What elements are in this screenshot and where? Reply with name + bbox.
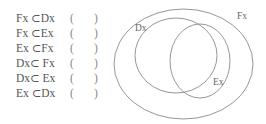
label-ex: Ex — [213, 77, 224, 87]
venn-diagram: Fx Dx Ex — [0, 0, 266, 124]
label-dx: Dx — [135, 23, 147, 33]
label-fx: Fx — [237, 11, 247, 21]
set-dx-ellipse — [135, 18, 217, 93]
